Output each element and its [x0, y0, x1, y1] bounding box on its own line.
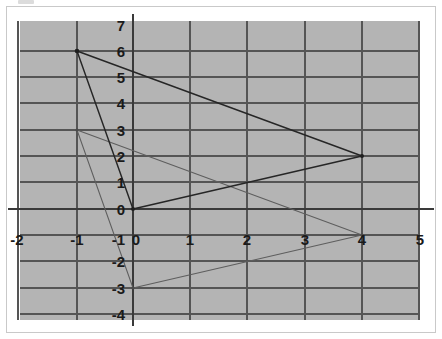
y-tick-label-6: 6: [117, 43, 125, 60]
coordinate-plane-chart: -2 -1 0 1 2 3 4 5 7 6 5 4 3 2 1 0 -1 -2 …: [0, 0, 442, 339]
vertex-marker-4-2: [360, 154, 364, 158]
y-tick-label-0: 0: [117, 201, 125, 218]
x-tick-label-5: 5: [416, 231, 424, 248]
x-tick-label--2: -2: [10, 231, 23, 248]
vertex-marker-0-neg3: [131, 286, 134, 289]
y-tick-label--3: -3: [112, 280, 125, 297]
x-tick-label-0: 0: [132, 231, 140, 248]
x-tick-label-1: 1: [186, 231, 194, 248]
y-tick-label--4: -4: [112, 306, 126, 323]
y-tick-label-5: 5: [117, 69, 125, 86]
x-tick-label-3: 3: [301, 231, 309, 248]
y-tick-label-4: 4: [117, 95, 126, 112]
figure-root: -2 -1 0 1 2 3 4 5 7 6 5 4 3 2 1 0 -1 -2 …: [0, 0, 442, 339]
x-tick-label-4: 4: [358, 231, 367, 248]
vertex-marker-neg1-6: [75, 49, 80, 54]
x-tick-label-2: 2: [243, 231, 251, 248]
x-tick-label--1: -1: [70, 231, 83, 248]
plot-background: [20, 21, 420, 320]
y-tick-label--2: -2: [112, 253, 125, 270]
y-tick-label-3: 3: [117, 122, 125, 139]
vertex-marker-neg1-3: [75, 128, 78, 131]
y-tick-label-7: 7: [117, 17, 125, 34]
y-tick-label-1: 1: [117, 174, 125, 191]
y-tick-label-2: 2: [117, 148, 125, 165]
y-tick-label--1: -1: [112, 231, 125, 248]
vertex-marker-0-0: [131, 207, 135, 211]
